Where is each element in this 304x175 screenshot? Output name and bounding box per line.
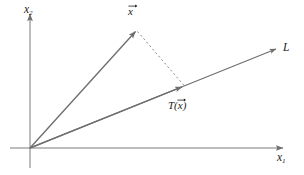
y-axis-label: x2 — [24, 4, 33, 17]
x-axis-label-subscript: 1 — [282, 157, 286, 165]
line-L-label: L — [283, 42, 289, 54]
diagram-canvas — [0, 0, 304, 175]
projection-label-inner: x — [178, 99, 183, 111]
vector-projection-diagram: x2 x1 x T(x) L — [0, 0, 304, 175]
dashed-projection-segment — [138, 32, 185, 87]
vector-x-label-base: x — [128, 5, 133, 17]
y-axis-label-subscript: 2 — [29, 9, 33, 17]
projection-label-prefix: T( — [168, 99, 178, 111]
vector-x-label: x — [128, 6, 133, 17]
x-axis-label: x1 — [277, 152, 286, 165]
projection-label-suffix: ) — [183, 99, 187, 111]
vector-projection — [30, 87, 182, 148]
vector-x — [30, 32, 136, 149]
projection-label: T(x) — [168, 100, 186, 111]
